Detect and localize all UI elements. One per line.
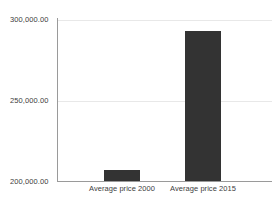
bars-layer <box>0 0 279 203</box>
bar-average-price-2015[interactable] <box>185 31 221 181</box>
bar-chart: 300,000.00 250,000.00 200,000.00 Average… <box>0 0 279 203</box>
x-category-label-1: Average price 2015 <box>159 184 247 193</box>
bar-average-price-2000[interactable] <box>104 170 140 181</box>
x-category-label-0: Average price 2000 <box>78 184 166 193</box>
